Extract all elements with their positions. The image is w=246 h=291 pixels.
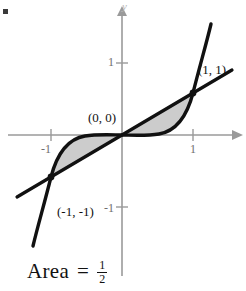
x-tick-label-negative-one: -1 <box>41 143 51 155</box>
y-tick-label-negative-one: -1 <box>104 202 114 214</box>
caption-prefix: Area <box>27 259 69 284</box>
point-label-lower-intersection: (-1, -1) <box>57 205 94 218</box>
figure-area-between-curves: y (1, 1) (0, 0) (-1, -1) 1 -1 1 -1 Area … <box>0 0 246 291</box>
x-axis-arrowhead <box>232 130 243 140</box>
point-label-origin: (0, 0) <box>88 111 116 124</box>
y-tick-label-positive-one: 1 <box>108 56 114 68</box>
caption-fraction: 1 2 <box>97 259 107 285</box>
point-dot-upper <box>190 90 197 97</box>
caption-area-result: Area = 1 2 <box>27 258 107 284</box>
fraction-numerator: 1 <box>97 259 107 272</box>
y-axis-label: y <box>122 1 127 12</box>
point-label-upper-intersection: (1, 1) <box>198 63 226 76</box>
x-tick-label-positive-one: 1 <box>190 143 196 155</box>
caption-equals-sign: = <box>77 259 89 284</box>
point-dot-lower <box>48 174 55 181</box>
graph-canvas <box>0 0 246 291</box>
fraction-denominator: 2 <box>97 272 107 286</box>
